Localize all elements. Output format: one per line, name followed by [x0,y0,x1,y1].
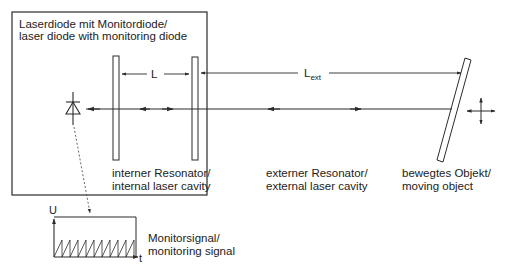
signal-connector-dashed [74,127,90,213]
internal-cavity-mirror-left [113,56,119,160]
moving-object [437,58,471,162]
external-length-dimension: Lext [201,67,461,82]
moving-object-label-en: moving object [402,180,474,192]
monitor-signal-label-de: Monitorsignal/ [148,232,220,244]
internal-length-label: L [151,68,158,80]
internal-cavity-label-en: internal laser cavity [112,180,211,192]
monitor-signal-label-en: monitoring signal [148,245,235,257]
external-cavity-label-de: externer Resonator/ [266,167,368,179]
laser-box-label-en: laser diode with monitoring diode [19,30,187,42]
internal-length-dimension: L [122,68,189,80]
photodiode-icon [66,92,80,125]
monitor-signal-plot: U t [49,204,142,264]
motion-arrows-icon [467,98,495,124]
x-axis-label: t [139,252,142,264]
y-axis-label: U [49,204,57,216]
internal-cavity-label-de: interner Resonator/ [112,167,211,179]
external-cavity-label-en: external laser cavity [266,180,368,192]
moving-object-label-de: bewegtes Objekt/ [402,167,492,179]
laser-box-label-de: Laserdiode mit Monitordiode/ [19,18,168,30]
external-length-label: Lext [304,67,322,82]
sawtooth-waveform [54,240,134,257]
self-mixing-diagram: Laserdiode mit Monitordiode/ laser diode… [0,0,507,275]
